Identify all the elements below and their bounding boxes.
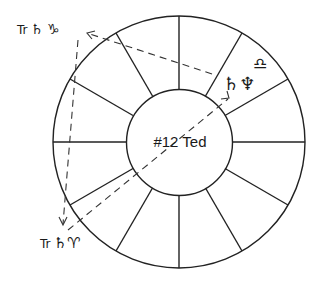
transit-prefix: Tr <box>40 237 51 251</box>
house-cusp <box>70 169 133 206</box>
transit-saturn-aries-label: Tr♄♈ <box>40 236 80 251</box>
transit-saturn-capricorn-label: Tr♄♑ <box>17 22 60 36</box>
transit-arrow-to-top-label <box>90 34 212 74</box>
house-cusp <box>206 188 243 251</box>
house-cusp <box>225 169 288 206</box>
aries-icon: ♈ <box>67 234 80 252</box>
capricorn-icon: ♑ <box>47 21 60 37</box>
saturn-icon: ♄ <box>54 234 67 252</box>
chart-title: #12 Ted <box>139 134 221 149</box>
transit-prefix: Tr <box>17 23 28 37</box>
house-cusp <box>70 79 133 116</box>
natal-saturn-neptune-icon: ♄♆ <box>223 75 255 93</box>
transit-arrow-vertical <box>63 40 78 224</box>
transit-arrow-diagonal <box>68 99 228 230</box>
libra-icon: ♎ <box>253 56 267 72</box>
house-cusp <box>116 33 153 96</box>
saturn-icon: ♄ <box>31 21 44 37</box>
house-cusp <box>116 188 153 251</box>
